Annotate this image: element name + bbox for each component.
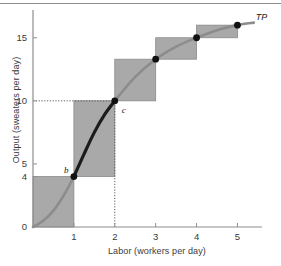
x-tick-label-5: 5 (230, 231, 244, 242)
y-tick-label-0: 0 (11, 221, 27, 232)
chart-plot-area (0, 0, 281, 266)
total-product-chart: Output (sweaters per day) Labor (workers… (0, 0, 281, 266)
x-tick-label-3: 3 (149, 231, 163, 242)
point-label-b: b (64, 165, 69, 175)
y-tick-label-15: 15 (11, 32, 27, 43)
data-point-c (111, 97, 118, 104)
data-point-x3 (152, 56, 159, 63)
tp-curve-label: TP (256, 12, 268, 22)
x-tick-label-1: 1 (67, 231, 81, 242)
y-tick-label-5: 5 (11, 158, 27, 169)
x-axis-title: Labor (workers per day) (108, 246, 206, 256)
data-point-b (70, 173, 77, 180)
y-tick-label-4: 4 (11, 171, 27, 182)
x-tick-label-4: 4 (190, 231, 204, 242)
x-tick-label-2: 2 (108, 231, 122, 242)
data-point-x4 (193, 34, 200, 41)
data-point-x5 (234, 22, 241, 29)
y-tick-label-10: 10 (11, 95, 27, 106)
bar-0-1 (33, 177, 74, 227)
point-label-c: c (122, 105, 126, 115)
